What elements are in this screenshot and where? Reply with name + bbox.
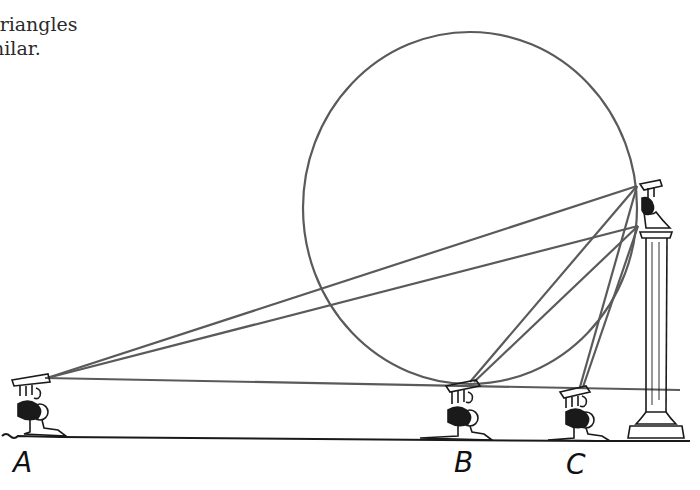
sight-line-a-top [47,186,637,378]
label-a: A [13,446,32,479]
observer-c [548,386,610,441]
sight-line-a-bottom [47,226,638,378]
column [628,232,684,438]
sight-line-b-top [470,186,637,382]
statue [640,180,670,228]
geometry-diagram [0,0,700,490]
observer-a [12,374,66,436]
label-b: B [454,446,473,479]
sight-line-c-bottom [583,226,638,387]
observer-b [420,380,492,440]
label-c: C [566,448,586,481]
tangent-circle [303,32,637,384]
sight-line-c-top [580,186,637,387]
